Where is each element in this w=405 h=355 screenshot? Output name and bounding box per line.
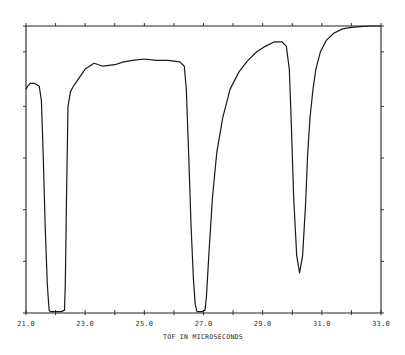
chart-plot [0,0,405,355]
plot-frame [26,26,381,313]
x-tick-label: 31.0 [313,320,331,328]
x-tick-label: 23.0 [76,320,94,328]
x-tick-label: 27.0 [195,320,213,328]
x-axis-label: TOF IN MICROSECONDS [163,333,243,341]
axis-ticks [23,23,384,315]
x-tick-label: 25.0 [135,320,153,328]
x-tick-label: 21.0 [17,320,35,328]
data-line-transmission [26,26,381,312]
x-tick-label: 29.0 [254,320,272,328]
x-tick-label: 33.0 [372,320,390,328]
